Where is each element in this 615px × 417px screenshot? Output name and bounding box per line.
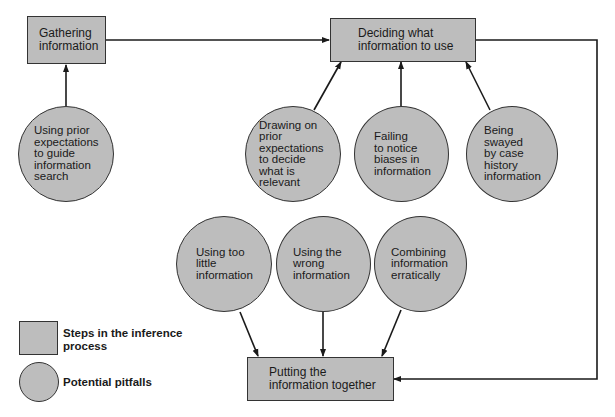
arrow-prior-relevant <box>314 62 341 110</box>
pitfall-wrong-information: Using the wrong information <box>276 216 371 312</box>
legend-step-swatch <box>19 321 58 355</box>
arrow-deciding-to-putting <box>394 40 597 379</box>
pitfall-case-history: Being swayed by case history information <box>466 106 558 202</box>
step-gathering-information: Gathering information <box>27 16 106 64</box>
pitfall-label: Drawing on prior expectations to decide … <box>259 120 324 189</box>
pitfall-label: Using too little information <box>196 247 253 282</box>
legend-pitfall-swatch <box>19 362 59 402</box>
step-deciding-what-information: Deciding what information to use <box>330 18 476 62</box>
step-putting-information-together: Putting the information together <box>247 357 394 401</box>
pitfall-prior-expectations-relevant: Drawing on prior expectations to decide … <box>245 106 341 202</box>
pitfall-label: Failing to notice biases in information <box>374 131 431 177</box>
pitfall-label: Using prior expectations to guide inform… <box>34 125 99 183</box>
pitfall-label: Combining information erratically <box>391 247 448 282</box>
pitfall-combining-erratically: Combining information erratically <box>374 216 467 312</box>
pitfall-failing-to-notice-biases: Failing to notice biases in information <box>354 106 449 202</box>
pitfall-label: Being swayed by case history information <box>484 125 541 183</box>
pitfall-too-little-information: Using too little information <box>176 216 272 312</box>
legend-steps-label: Steps in the inference process <box>63 327 183 353</box>
pitfall-prior-expectations-search: Using prior expectations to guide inform… <box>18 106 114 202</box>
arrow-erratic <box>382 310 401 356</box>
step-label: Deciding what information to use <box>358 27 453 53</box>
pitfall-label: Using the wrong information <box>293 247 350 282</box>
step-label: Putting the information together <box>269 366 376 392</box>
arrow-case-history <box>466 62 490 110</box>
arrow-too-little <box>240 312 258 356</box>
step-label: Gathering information <box>39 27 98 53</box>
legend-pitfalls-label: Potential pitfalls <box>63 376 152 389</box>
